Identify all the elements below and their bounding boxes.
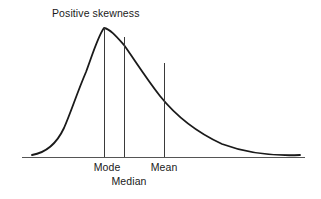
median-label: Median — [111, 176, 146, 187]
mean-label: Mean — [151, 162, 178, 173]
chart-title: Positive skewness — [52, 8, 139, 19]
distribution-curve — [32, 28, 300, 155]
mode-label: Mode — [94, 162, 121, 173]
skewness-figure: Positive skewness Mode Median Mean — [0, 0, 321, 199]
